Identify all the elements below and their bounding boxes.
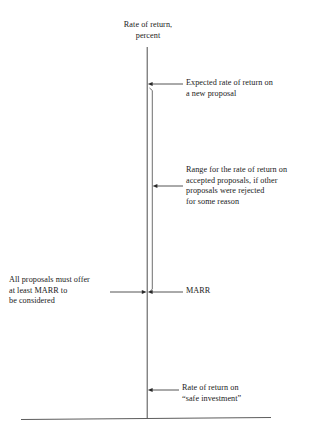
range-annotation-label: Range for the rate of return on accepted… <box>186 165 318 207</box>
axis-title-label: Rate of return, percent <box>88 20 208 41</box>
range-bracket <box>150 88 153 292</box>
diagram-line-art <box>0 0 318 439</box>
safe-investment-annotation-label: Rate of return on “safe investment” <box>182 383 312 404</box>
expected-arrowhead <box>148 82 153 86</box>
baseline-axis-line <box>21 418 271 420</box>
safe-investment-arrowhead <box>148 388 153 392</box>
marr-annotation-label: MARR <box>186 286 266 297</box>
rate-of-return-diagram: Rate of return, percent Expected rate of… <box>0 0 318 439</box>
all-proposals-annotation-label: All proposals must offer at least MARR t… <box>9 275 135 307</box>
range-arrowhead <box>153 184 158 188</box>
marr-arrowhead <box>148 290 153 294</box>
all-proposals-arrowhead <box>142 290 147 294</box>
expected-rate-annotation-label: Expected rate of return on a new proposa… <box>186 78 316 99</box>
